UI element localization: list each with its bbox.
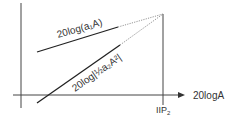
second-order-label: 20log|½a₂A²| [70,52,123,94]
iip2-label: IIP2 [156,105,171,116]
x-axis-arrow-icon [178,92,185,98]
second-order-extrapolation [120,14,163,45]
iip2-diagram: 20log(a₁A) 20log|½a₂A²| 20logA IIP2 [0,0,240,121]
second-order-line [37,45,120,103]
fundamental-extrapolation [118,14,163,27]
fundamental-label: 20log(a₁A) [56,16,104,39]
x-axis-label: 20logA [193,90,224,101]
